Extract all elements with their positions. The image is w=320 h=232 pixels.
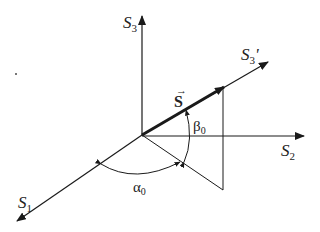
alpha-label: α0 <box>133 180 146 197</box>
diagram-canvas: S3 S3' S2 S1 → S β0 α0 <box>0 0 320 232</box>
beta-label: β0 <box>193 119 206 136</box>
s2-label: S2 <box>281 142 295 162</box>
projection-line <box>142 135 223 190</box>
diagram-graphics <box>0 0 320 232</box>
s1-label: S1 <box>18 194 32 214</box>
stray-dot <box>15 73 17 75</box>
alpha-arc <box>101 162 180 174</box>
s3prime-label: S3' <box>241 46 259 66</box>
s3-label: S3 <box>123 14 137 34</box>
s1-axis <box>17 135 142 221</box>
s-vector-label: → S <box>174 94 183 110</box>
